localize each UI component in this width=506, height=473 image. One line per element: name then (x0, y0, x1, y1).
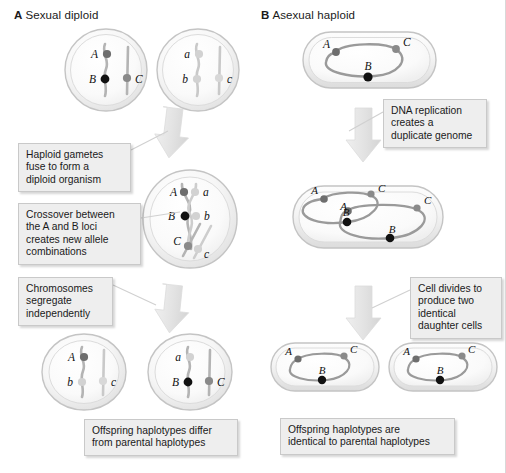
svg-text:c: c (111, 376, 116, 388)
arrow-segregation (153, 283, 192, 334)
svg-text:B: B (319, 364, 326, 376)
svg-text:B: B (172, 376, 179, 388)
callout-segregation: Chromosomes segregate independently (18, 277, 113, 326)
svg-text:c: c (204, 248, 209, 260)
svg-text:A: A (67, 351, 76, 363)
svg-text:C: C (403, 36, 411, 48)
callout-cell-division: Cell divides to produce two identical da… (410, 277, 502, 339)
arrow-fusion (152, 106, 192, 160)
svg-text:B: B (437, 364, 444, 376)
callout-haploid-fusion: Haploid gametes fuse to form a diploid o… (18, 143, 131, 192)
cell-daughter-2: A C B (389, 343, 497, 391)
svg-text:C: C (135, 73, 143, 85)
svg-text:B: B (168, 210, 175, 222)
svg-text:C: C (217, 376, 225, 388)
svg-text:c: c (227, 73, 232, 85)
svg-text:B: B (343, 206, 350, 218)
svg-text:B: B (389, 223, 396, 235)
cell-gamete-2: a b c (157, 29, 239, 111)
svg-text:b: b (67, 376, 73, 388)
cell-replicated-bacterium: A C A C B B (293, 182, 443, 248)
svg-text:C: C (173, 235, 181, 247)
callout-crossover: Crossover between the A and B loci creat… (18, 203, 141, 265)
svg-text:A: A (169, 186, 178, 198)
svg-text:b: b (182, 73, 188, 85)
svg-text:C: C (468, 343, 476, 355)
callout-dna-replication: DNA replication creates a duplicate geno… (383, 99, 487, 148)
svg-text:A: A (402, 345, 410, 357)
svg-text:B: B (89, 73, 96, 85)
arrow-division (346, 286, 381, 340)
figure-canvas: ASexual diploid BAsexual haploid (0, 0, 506, 473)
svg-text:A: A (310, 184, 318, 196)
svg-text:a: a (203, 186, 209, 198)
cell-parent-bacterium: A C B (303, 32, 436, 88)
callout-offspring-identical: Offspring haplotypes are identical to pa… (280, 418, 455, 455)
svg-text:b: b (204, 210, 210, 222)
svg-text:B: B (364, 60, 371, 72)
svg-text:a: a (184, 48, 190, 60)
svg-text:A: A (284, 345, 292, 357)
cell-gamete-1: A B C (65, 29, 147, 111)
svg-text:C: C (378, 182, 386, 194)
cell-offspring-2: a B C (148, 334, 232, 410)
svg-text:C: C (350, 343, 358, 355)
cell-daughter-1: A C B (271, 343, 379, 391)
svg-text:A: A (322, 38, 331, 50)
callout-offspring-differ: Offspring haplotypes differ from parenta… (84, 419, 238, 456)
svg-text:A: A (90, 48, 99, 60)
cell-zygote: A a B b C c (143, 170, 237, 268)
cell-offspring-1: A b c (42, 334, 126, 410)
svg-text:C: C (424, 194, 432, 206)
svg-text:a: a (175, 351, 181, 363)
